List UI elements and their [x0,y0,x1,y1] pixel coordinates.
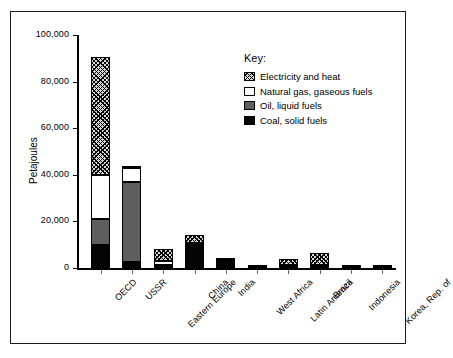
bar-china [185,235,204,268]
x-tick-mark [226,270,227,274]
bar-indonesia [342,267,361,268]
legend-item-oil: Oil, liquid fuels [244,100,394,111]
y-tick-mark [73,268,77,269]
legend-title: Key: [244,52,394,64]
y-tick-label: 0 [9,262,69,272]
x-tick-mark [195,270,196,274]
bar-segment-coal [122,262,141,268]
bar-segment-oil [91,219,110,245]
bar-segment-elec [185,235,204,243]
bar-latin-america [279,259,298,268]
x-axis-label: OECD [112,277,138,303]
x-axis-label: India [236,277,257,298]
bar-oecd [91,57,110,268]
y-tick-mark [73,175,77,176]
bar-west-africa [248,267,267,268]
chart-legend: Key: Electricity and heat Natural gas, g… [244,52,394,129]
y-axis-title: Petajoules [28,137,39,184]
bar-korea-rep-of [373,267,392,268]
bar-segment-gas [122,168,141,182]
legend-label: Coal, solid fuels [260,115,327,126]
bar-segment-elec [248,265,267,267]
y-axis-line [77,35,79,269]
y-tick-mark [73,35,77,36]
bar-eastern-europe [154,249,173,268]
y-tick-label: 80,000 [9,76,69,86]
y-tick-mark [73,128,77,129]
x-tick-mark [382,270,383,274]
x-tick-mark [101,270,102,274]
legend-label: Electricity and heat [260,71,340,82]
bar-ussr [122,167,141,268]
bar-brazil [310,253,329,268]
legend-label: Oil, liquid fuels [260,100,322,111]
x-tick-mark [163,270,164,274]
bar-segment-elec [373,265,392,267]
electricity-swatch-icon [244,72,255,81]
bar-india [216,260,235,268]
bar-segment-coal [154,266,173,268]
bar-segment-gas [154,261,173,264]
bar-segment-coal [185,245,204,268]
bar-segment-elec [122,166,141,168]
legend-item-coal: Coal, solid fuels [244,115,394,126]
x-axis-label: Korea, Rep. of [404,277,453,326]
y-tick-label: 20,000 [9,215,69,225]
bar-segment-coal [216,261,235,268]
y-tick-label: 100,000 [9,29,69,39]
x-tick-mark [320,270,321,274]
legend-item-electricity-and-heat: Electricity and heat [244,71,394,82]
bar-segment-elec [310,253,329,265]
x-axis-label: West Africa [275,277,315,317]
x-axis-label: Eastern Europe [186,277,238,329]
bar-segment-coal [91,245,110,268]
x-tick-mark [132,270,133,274]
legend-label: Natural gas, gaseous fuels [260,86,372,97]
x-tick-mark [288,270,289,274]
x-tick-mark [351,270,352,274]
x-axis-label: Indonesia [367,277,402,312]
bar-segment-elec [216,258,235,260]
bar-segment-elec [342,265,361,267]
bar-segment-oil [122,182,141,262]
x-tick-mark [257,270,258,274]
bar-segment-elec [154,249,173,261]
legend-item-natural-gas: Natural gas, gaseous fuels [244,86,394,97]
coal-swatch-icon [244,116,255,125]
bar-segment-elec [91,57,110,175]
x-axis-label: Brazil [331,277,354,300]
y-tick-label: 40,000 [9,169,69,179]
natural-gas-swatch-icon [244,87,255,96]
y-tick-label: 60,000 [9,122,69,132]
bar-segment-gas [91,175,110,219]
x-axis-label: USSR [143,277,168,302]
y-tick-mark [73,221,77,222]
bar-segment-elec [279,259,298,265]
x-axis-line [77,268,396,270]
y-tick-mark [73,82,77,83]
oil-swatch-icon [244,101,255,110]
